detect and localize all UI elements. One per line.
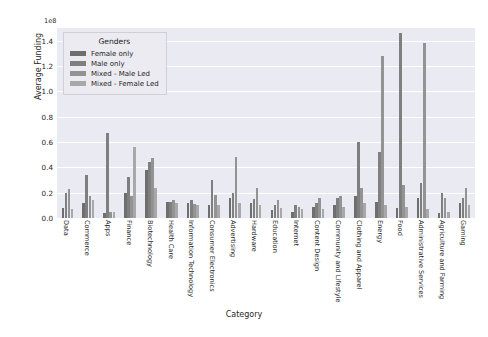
bar xyxy=(133,147,136,218)
legend-entry: Female only xyxy=(70,49,159,58)
legend-swatch xyxy=(70,71,86,76)
x-axis-ticks: DataCommerceAppsFinanceBiotechnologyHeal… xyxy=(57,220,475,310)
x-tick-label: Agriculture and Farming xyxy=(438,220,446,299)
bar-group xyxy=(182,28,203,218)
bar xyxy=(322,209,325,218)
legend-title: Genders xyxy=(70,37,159,46)
bar-group xyxy=(433,28,454,218)
bar xyxy=(384,205,387,218)
x-tick-label: Data xyxy=(62,220,70,236)
bar-group xyxy=(266,28,287,218)
bar xyxy=(342,207,345,218)
x-axis-label: Category xyxy=(0,310,488,319)
bar xyxy=(175,203,178,218)
x-tick-label: Biotechnology xyxy=(146,220,154,267)
bar xyxy=(405,207,408,218)
x-tick-label: Health Care xyxy=(167,220,175,259)
x-tick-label: Energy xyxy=(376,220,384,243)
legend-entries: Female onlyMale onlyMixed - Male LedMixe… xyxy=(70,49,159,88)
x-tick-label: Finance xyxy=(125,220,133,245)
y-tick-label: 0.2 xyxy=(27,188,53,197)
bar-group xyxy=(454,28,475,218)
bar xyxy=(423,43,426,218)
bar xyxy=(106,133,109,218)
x-tick-label: Administrative Services xyxy=(417,220,425,298)
bar xyxy=(280,208,283,218)
bar-group xyxy=(308,28,329,218)
figure: 1e8 Average Funding 0.00.20.40.60.81.01.… xyxy=(0,0,488,337)
bar xyxy=(426,209,429,218)
legend: Genders Female onlyMale onlyMixed - Male… xyxy=(63,32,167,95)
y-tick-label: 0.8 xyxy=(27,112,53,121)
bar-group xyxy=(412,28,433,218)
bar-group xyxy=(287,28,308,218)
x-tick-label: Food xyxy=(396,220,404,236)
bar xyxy=(381,56,384,218)
bar xyxy=(113,212,116,218)
y-tick-label: 0.6 xyxy=(27,138,53,147)
bar xyxy=(301,209,304,218)
legend-entry: Mixed - Female Led xyxy=(70,79,159,88)
legend-label: Mixed - Female Led xyxy=(91,80,159,88)
bar xyxy=(196,205,199,218)
bar xyxy=(447,212,450,218)
y-tick-label: 0.4 xyxy=(27,163,53,172)
bar xyxy=(154,188,157,218)
legend-swatch xyxy=(70,51,86,56)
x-tick-label: Consumer Electronics xyxy=(208,220,216,292)
y-axis-ticks: 0.00.20.40.60.81.01.21.4 xyxy=(22,28,53,218)
y-tick-label: 1.4 xyxy=(27,36,53,45)
bar xyxy=(238,203,241,218)
x-tick-label: Gaming xyxy=(459,220,467,246)
x-tick-label: Commerce xyxy=(83,220,91,256)
legend-entry: Mixed - Male Led xyxy=(70,69,159,78)
bar-group xyxy=(203,28,224,218)
bar-group xyxy=(371,28,392,218)
bar-group xyxy=(224,28,245,218)
legend-label: Mixed - Male Led xyxy=(91,70,150,78)
y-tick-label: 0.0 xyxy=(27,214,53,223)
bar xyxy=(92,200,95,218)
y-tick-label: 1.2 xyxy=(27,62,53,71)
legend-entry: Male only xyxy=(70,59,159,68)
y-axis-exponent: 1e8 xyxy=(44,17,57,25)
bar xyxy=(71,209,74,218)
x-tick-label: Education xyxy=(271,220,279,253)
x-tick-label: Apps xyxy=(104,220,112,236)
y-tick-label: 1.0 xyxy=(27,87,53,96)
x-tick-label: Community and Lifestyle xyxy=(334,220,342,302)
bar-group xyxy=(245,28,266,218)
x-tick-label: Information Technology xyxy=(187,220,195,297)
x-tick-label: Hardware xyxy=(250,220,258,252)
bar xyxy=(468,205,471,218)
x-tick-label: Clothing and Apparel xyxy=(355,220,363,289)
bar xyxy=(217,205,220,218)
bar xyxy=(363,203,366,218)
x-tick-label: Content Design xyxy=(313,220,321,271)
bar-group xyxy=(329,28,350,218)
bar-group xyxy=(350,28,371,218)
legend-swatch xyxy=(70,61,86,66)
legend-swatch xyxy=(70,81,86,86)
x-tick-label: Advertising xyxy=(229,220,237,257)
legend-label: Male only xyxy=(91,60,125,68)
legend-label: Female only xyxy=(91,50,133,58)
x-tick-label: Internet xyxy=(292,220,300,246)
bar-group xyxy=(391,28,412,218)
bar xyxy=(259,205,262,218)
